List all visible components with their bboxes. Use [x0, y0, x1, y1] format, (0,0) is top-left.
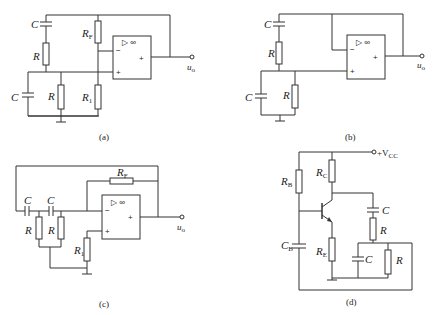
label-C: C — [11, 91, 19, 103]
label-C: C — [382, 204, 390, 216]
label-R: R — [267, 47, 275, 59]
circuit-figure: ▷ ∞ − + + C R C R RF R1 uo (a) ▷ ∞ − — [0, 0, 441, 315]
label-C: C — [245, 91, 253, 103]
minus-sign: − — [116, 46, 121, 55]
output-terminal — [420, 54, 424, 58]
output-plus-sign: + — [139, 54, 144, 63]
label-C: C — [31, 18, 39, 30]
label-RC: RC — [315, 166, 328, 180]
label-C: C — [264, 18, 272, 30]
panel-c: ▷ ∞ − + + C C R R RF R1 uo (c) — [16, 166, 186, 309]
opamp-symbol: ▷ ∞ — [111, 198, 125, 207]
panel-d: +VCC RB RC CB RE C — [280, 148, 412, 307]
label-uo: uo — [187, 62, 196, 74]
label-R: R — [32, 50, 40, 62]
opamp-symbol: ▷ ∞ — [356, 38, 370, 47]
label-RF: RF — [116, 166, 128, 180]
vcc-terminal — [372, 150, 376, 154]
label-R1: R1 — [73, 244, 85, 258]
panel-a: ▷ ∞ − + + C R C R RF R1 uo (a) — [11, 15, 196, 142]
output-terminal — [180, 215, 184, 219]
minus-sign: − — [350, 45, 355, 54]
label-R: R — [47, 224, 55, 236]
output-plus-sign: + — [128, 213, 133, 222]
label-RF: RF — [81, 27, 93, 41]
plus-sign: + — [116, 68, 121, 77]
minus-sign: − — [105, 206, 110, 215]
plus-sign: + — [105, 227, 110, 236]
label-vcc: +VCC — [377, 148, 398, 160]
label-C: C — [365, 253, 373, 265]
caption-b: (b) — [345, 132, 356, 142]
label-R: R — [379, 224, 387, 236]
opamp-symbol: ▷ ∞ — [122, 38, 136, 47]
label-R: R — [47, 90, 55, 102]
caption-d: (d) — [346, 297, 357, 307]
label-R: R — [24, 224, 32, 236]
panel-b: ▷ ∞ − + + C R C R uo (b) — [245, 14, 426, 142]
label-CB: CB — [281, 239, 293, 253]
label-uo: uo — [417, 60, 426, 72]
caption-a: (a) — [99, 132, 109, 142]
output-terminal — [190, 55, 194, 59]
label-R: R — [395, 254, 403, 266]
caption-c: (c) — [99, 299, 109, 309]
plus-sign: + — [350, 67, 355, 76]
label-RB: RB — [280, 175, 293, 189]
label-C: C — [24, 194, 32, 206]
label-C: C — [47, 194, 55, 206]
label-uo: uo — [177, 222, 186, 234]
output-plus-sign: + — [373, 53, 378, 62]
label-RE: RE — [315, 245, 327, 259]
label-R1: R1 — [81, 91, 93, 105]
label-R: R — [282, 89, 290, 101]
